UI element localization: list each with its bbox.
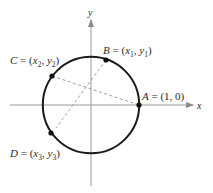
dashed-segment-c-a — [52, 76, 139, 105]
point-d — [48, 130, 53, 135]
label-b: B = (x1, y1) — [103, 44, 152, 59]
unit-circle-figure: x y A = (1, 0) B = (x1, y1) C = (x2, y2)… — [0, 0, 213, 193]
label-c: C = (x2, y2) — [10, 54, 60, 69]
x-axis-label: x — [196, 100, 202, 111]
label-a: A = (1, 0) — [141, 90, 185, 103]
point-a — [136, 102, 141, 107]
y-axis-label: y — [87, 7, 93, 18]
dashed-segment-b-d — [56, 60, 106, 128]
point-c — [49, 73, 54, 78]
diagram-canvas: x y A = (1, 0) B = (x1, y1) C = (x2, y2)… — [0, 0, 213, 193]
label-d: D = (x3, y3) — [9, 147, 60, 162]
point-b — [103, 57, 108, 62]
